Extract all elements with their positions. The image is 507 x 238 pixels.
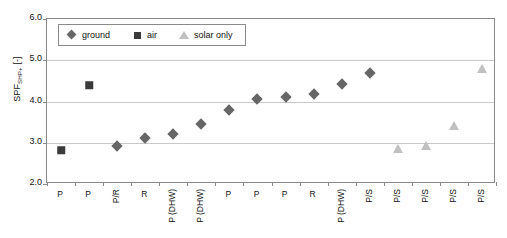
y-axis-tick-label: 3.0 bbox=[18, 137, 42, 146]
square-icon bbox=[132, 30, 142, 40]
x-axis-tick-label: R bbox=[300, 189, 326, 199]
x-axis-tick-label: P/S bbox=[476, 189, 486, 203]
y-axis-tick-label: 4.0 bbox=[18, 96, 42, 105]
data-point-solar-only bbox=[477, 64, 487, 73]
y-axis-tick-label: 5.0 bbox=[18, 54, 42, 63]
legend-entry-air: air bbox=[132, 30, 157, 40]
y-axis-tick-labels: 6.05.04.03.02.0 bbox=[0, 0, 42, 238]
data-point-air bbox=[57, 146, 65, 154]
chart-legend: groundairsolar only bbox=[58, 24, 246, 46]
data-point-ground bbox=[196, 118, 207, 129]
triangle-icon bbox=[179, 30, 189, 40]
data-point-ground bbox=[252, 93, 263, 104]
x-axis-tick-labels: PPP/RRP (DHW)P (DHW)PPPRP (DHW)P/SP/SP/S… bbox=[46, 183, 495, 238]
legend-label: solar only bbox=[194, 30, 233, 40]
x-axis-tick-label: P/R bbox=[111, 189, 121, 203]
x-axis-tick-label: R bbox=[131, 189, 157, 199]
data-point-ground bbox=[111, 140, 122, 151]
data-point-ground bbox=[224, 104, 235, 115]
x-axis-tick-label: P/S bbox=[420, 189, 430, 203]
y-axis-tick-label: 6.0 bbox=[18, 13, 42, 22]
y-axis-tick-mark bbox=[43, 60, 47, 61]
legend-label: air bbox=[147, 30, 157, 40]
x-axis-tick-mark bbox=[496, 182, 497, 186]
data-point-ground bbox=[364, 68, 375, 79]
x-axis-tick-label: P/S bbox=[448, 189, 458, 203]
y-axis-tick-mark bbox=[43, 19, 47, 20]
x-axis-tick-label: P (DHW) bbox=[195, 189, 205, 223]
data-point-solar-only bbox=[421, 142, 431, 151]
x-axis-tick-label: P/S bbox=[392, 189, 402, 203]
x-axis-tick-label: P bbox=[243, 189, 269, 199]
x-axis-tick-label: P/S bbox=[364, 189, 374, 203]
data-point-ground bbox=[168, 128, 179, 139]
diamond-icon bbox=[67, 30, 77, 40]
x-axis-tick-label: P (DHW) bbox=[167, 189, 177, 223]
x-axis-tick-label: P bbox=[75, 189, 101, 199]
data-point-air bbox=[85, 81, 93, 89]
legend-entry-solar-only: solar only bbox=[179, 30, 233, 40]
y-axis-tick-label: 2.0 bbox=[18, 178, 42, 187]
x-axis-tick-label: P (DHW) bbox=[336, 189, 346, 223]
legend-entry-ground: ground bbox=[67, 30, 110, 40]
data-point-solar-only bbox=[449, 121, 459, 130]
y-axis-tick-mark bbox=[43, 143, 47, 144]
data-point-ground bbox=[140, 132, 151, 143]
y-axis-tick-mark bbox=[43, 102, 47, 103]
x-axis-tick-label: P bbox=[47, 189, 73, 199]
data-point-solar-only bbox=[393, 144, 403, 153]
x-axis-tick-label: P bbox=[272, 189, 298, 199]
gridline bbox=[47, 60, 494, 61]
gridline bbox=[47, 102, 494, 103]
legend-label: ground bbox=[82, 30, 110, 40]
data-point-ground bbox=[336, 79, 347, 90]
data-point-ground bbox=[308, 88, 319, 99]
spf-scatter-chart: SPFSHP+ [-] 6.05.04.03.02.0 PPP/RRP (DHW… bbox=[0, 0, 507, 238]
x-axis-tick-label: P bbox=[215, 189, 241, 199]
